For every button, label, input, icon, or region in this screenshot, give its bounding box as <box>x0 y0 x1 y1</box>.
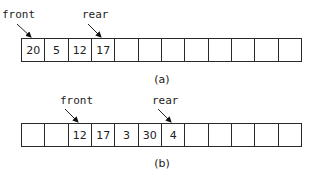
queue-array-a: 20 5 12 17 <box>21 38 302 62</box>
rear-pointer-label-b: rear <box>152 95 179 107</box>
array-cell <box>232 124 255 146</box>
array-cell: 17 <box>92 39 115 61</box>
array-cell <box>279 39 301 61</box>
array-cell <box>232 39 255 61</box>
array-cell: 12 <box>69 39 92 61</box>
pointer-arrows <box>0 0 314 180</box>
rear-arrow-b <box>158 109 171 122</box>
array-cell: 17 <box>92 124 115 146</box>
array-cell <box>209 39 232 61</box>
queue-array-b: 12 17 3 30 4 <box>21 123 302 147</box>
array-cell <box>209 124 232 146</box>
array-cell <box>279 124 301 146</box>
rear-pointer-label-a: rear <box>82 9 109 21</box>
array-cell: 30 <box>139 124 162 146</box>
array-cell <box>139 39 162 61</box>
front-arrow-a <box>17 24 31 37</box>
front-arrow-b <box>65 109 78 122</box>
array-cell <box>255 124 278 146</box>
array-cell <box>115 39 138 61</box>
array-cell: 4 <box>162 124 185 146</box>
array-cell: 20 <box>22 39 45 61</box>
array-cell <box>22 124 45 146</box>
rear-arrow-a <box>88 24 101 37</box>
array-cell <box>162 39 185 61</box>
array-cell <box>185 124 208 146</box>
array-cell: 3 <box>115 124 138 146</box>
array-cell: 12 <box>69 124 92 146</box>
front-pointer-label-b: front <box>60 95 93 107</box>
caption-b: (b) <box>142 157 182 170</box>
array-cell: 5 <box>45 39 68 61</box>
array-cell <box>185 39 208 61</box>
front-pointer-label-a: front <box>2 9 35 21</box>
array-cell <box>45 124 68 146</box>
caption-a: (a) <box>142 73 182 86</box>
array-cell <box>255 39 278 61</box>
